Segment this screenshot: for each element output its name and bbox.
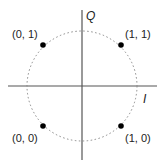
point-label-1-0: (1, 0) bbox=[125, 133, 151, 144]
i-axis-label: I bbox=[143, 93, 146, 105]
point-0-1 bbox=[40, 42, 46, 48]
point-0-0 bbox=[40, 123, 46, 129]
point-1-1 bbox=[118, 42, 124, 48]
point-label-1-1: (1, 1) bbox=[125, 29, 151, 40]
point-1-0 bbox=[118, 123, 124, 129]
constellation-diagram: Q I (0, 1) (1, 1) (0, 0) (1, 0) bbox=[0, 0, 164, 164]
point-label-0-0: (0, 0) bbox=[12, 133, 38, 144]
q-axis-label: Q bbox=[86, 10, 95, 22]
point-label-0-1: (0, 1) bbox=[12, 29, 38, 40]
